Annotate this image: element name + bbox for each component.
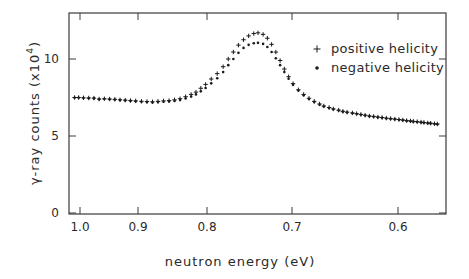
data-point-dot <box>297 89 300 92</box>
data-point-dot <box>199 90 202 93</box>
data-point-dot <box>119 99 122 102</box>
data-point-dot <box>134 100 137 103</box>
data-point-dot <box>173 100 176 103</box>
data-point-dot <box>257 42 260 45</box>
chart: 0510 1.00.90.80.70.6 neutron energy (eV)… <box>0 0 469 279</box>
data-point-dot <box>210 82 213 85</box>
data-point-dot <box>247 44 250 47</box>
x-tick-label: 0.8 <box>197 220 216 234</box>
data-point-dot <box>222 71 225 74</box>
data-point-dot <box>114 98 117 101</box>
data-point-plus <box>226 57 230 61</box>
data-point-dot <box>190 95 193 98</box>
data-point-dot <box>351 112 354 115</box>
data-point-dot <box>420 121 423 124</box>
data-point-dot <box>157 101 160 104</box>
y-tick-label: 0 <box>51 206 59 220</box>
data-point-dot <box>423 121 426 124</box>
data-point-dot <box>360 113 363 116</box>
data-point-plus <box>231 50 235 54</box>
data-point-dot <box>168 100 171 103</box>
data-point-plus <box>246 34 250 38</box>
data-point-dot <box>328 107 331 110</box>
x-tick-label: 0.7 <box>282 220 301 234</box>
data-point-dot <box>227 64 230 67</box>
data-point-dot <box>87 97 90 100</box>
data-point-dot <box>416 121 419 124</box>
y-axis-title: γ-ray counts (x104) <box>25 41 42 185</box>
data-point-dot <box>151 101 154 104</box>
data-point-dot <box>405 120 408 123</box>
data-point-dot <box>216 77 219 80</box>
data-point-dot <box>313 101 316 104</box>
data-point-dot <box>252 42 255 45</box>
data-point-dot <box>184 97 187 100</box>
legend-dot-marker <box>315 66 319 70</box>
data-point-dot <box>129 100 132 103</box>
data-point-dot <box>124 99 127 102</box>
data-point-dot <box>332 108 335 111</box>
data-point-dot <box>93 97 96 100</box>
x-tick-label: 1.0 <box>70 220 89 234</box>
data-point-dot <box>426 122 429 125</box>
data-point-dot <box>242 47 245 50</box>
data-point-dot <box>270 51 273 54</box>
data-point-dot <box>342 110 345 113</box>
data-point-dot <box>266 46 269 49</box>
data-point-dot <box>82 97 85 100</box>
data-point-dot <box>389 118 392 121</box>
data-point-plus <box>269 42 273 46</box>
data-point-dot <box>146 101 149 104</box>
legend-item-positive: positive helicity <box>314 41 439 56</box>
data-point-dot <box>162 101 165 104</box>
data-point-plus <box>282 67 286 71</box>
x-tick-label: 0.6 <box>388 220 407 234</box>
data-point-dot <box>377 116 380 119</box>
y-tick-label: 10 <box>44 52 59 66</box>
data-point-dot <box>398 119 401 122</box>
data-point-dot <box>108 98 111 101</box>
data-point-dot <box>204 87 207 90</box>
data-point-dot <box>279 64 282 67</box>
data-point-plus <box>252 31 256 35</box>
data-point-dot <box>337 109 340 112</box>
legend-item-negative: negative helicity <box>315 60 444 75</box>
data-point-dot <box>283 71 286 74</box>
data-point-dot <box>433 123 436 126</box>
data-point-dot <box>372 115 375 118</box>
data-point-dot <box>262 43 265 46</box>
data-point-dot <box>318 103 321 106</box>
data-point-dot <box>323 105 326 108</box>
data-point-plus <box>256 31 260 35</box>
legend-plus-marker <box>314 46 321 53</box>
data-point-plus <box>215 71 219 75</box>
data-point-plus <box>236 43 240 47</box>
legend: positive helicity negative helicity <box>314 41 445 75</box>
x-tick-label: 0.9 <box>128 220 147 234</box>
data-point-dot <box>292 84 295 87</box>
data-point-plus <box>209 77 213 81</box>
data-point-dot <box>429 122 432 125</box>
data-point-plus <box>278 58 282 62</box>
data-point-dot <box>287 77 290 80</box>
data-point-dot <box>103 98 106 101</box>
x-axis-title: neutron energy (eV) <box>165 254 315 269</box>
data-point-dot <box>77 97 80 100</box>
data-point-dot <box>308 98 311 101</box>
legend-label-negative: negative helicity <box>331 60 444 75</box>
y-axis-title-exponent: 4 <box>25 47 35 54</box>
data-point-dot <box>368 115 371 118</box>
data-point-dot <box>237 52 240 55</box>
data-point-dot <box>179 99 182 102</box>
data-point-dot <box>140 101 143 104</box>
data-point-dot <box>275 57 278 60</box>
data-point-plus <box>241 38 245 42</box>
data-point-dot <box>98 98 101 101</box>
y-axis-title-close: ) <box>27 41 42 47</box>
data-point-dot <box>195 93 198 96</box>
data-point-dot <box>302 94 305 97</box>
data-point-dot <box>381 117 384 120</box>
data-point-dot <box>346 111 349 114</box>
y-axis-title-main: γ-ray counts (x10 <box>27 54 42 185</box>
legend-label-positive: positive helicity <box>331 41 438 56</box>
